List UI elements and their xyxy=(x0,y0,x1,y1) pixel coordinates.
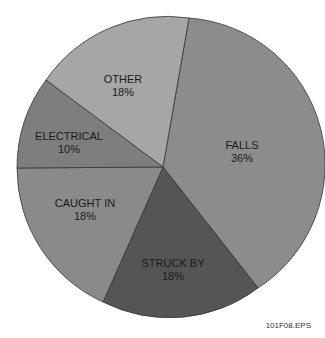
label-falls: FALLS 36% xyxy=(225,139,258,165)
label-other: OTHER 18% xyxy=(104,73,143,99)
pie-chart xyxy=(0,0,325,338)
figure-id: 101F08.EPS xyxy=(266,321,311,330)
label-struck-by: STRUCK BY 18% xyxy=(142,257,205,283)
label-electrical: ELECTRICAL 10% xyxy=(35,130,103,156)
label-caught-in: CAUGHT IN 18% xyxy=(55,197,115,223)
